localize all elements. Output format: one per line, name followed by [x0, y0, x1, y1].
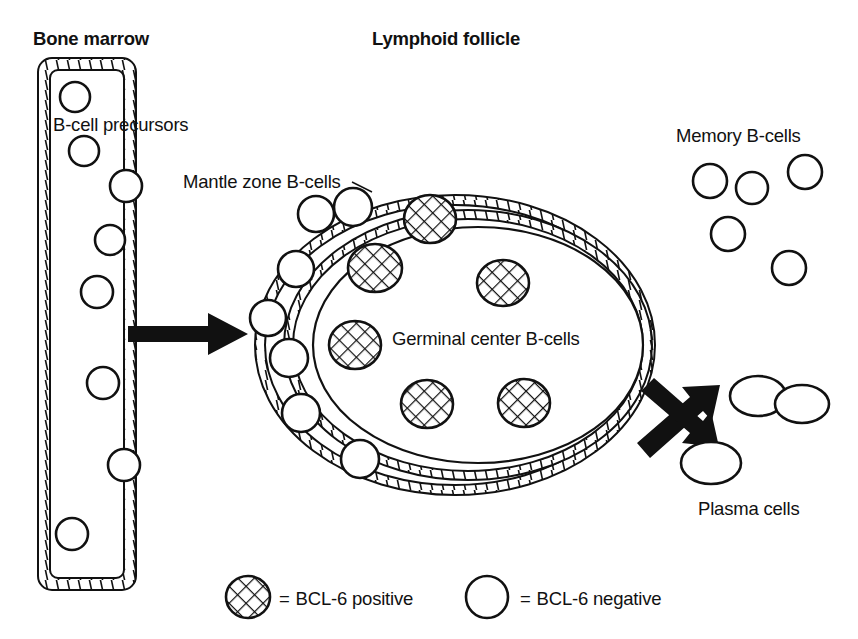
legend-bcl6-negative-text: =BCL-6 negative — [520, 588, 661, 609]
memory-b-cells-group — [693, 155, 822, 285]
legend-bcl6-positive-text: =BCL-6 positive — [279, 588, 413, 609]
arrow-marrow-to-follicle — [128, 313, 248, 355]
b-cell-differentiation-diagram: Bone marrow Lymphoid follicle B-cell pre… — [0, 0, 858, 639]
memory-b-cells-label: Memory B-cells — [676, 125, 801, 146]
precursor-cell — [110, 170, 142, 202]
bcl6-positive-cell — [329, 321, 381, 369]
memory-b-cell — [772, 251, 806, 285]
precursor-cell — [60, 82, 90, 112]
precursor-cell — [69, 136, 99, 166]
plasma-cell — [681, 442, 741, 484]
bcl6-positive-cell — [348, 244, 402, 292]
precursor-cell — [87, 367, 119, 399]
bone-marrow-group — [38, 58, 142, 590]
mantle-zone-cell — [250, 300, 286, 336]
legend-bcl6-negative-icon — [466, 576, 508, 618]
mantle-zone-cell — [298, 196, 334, 232]
bone-marrow-title: Bone marrow — [33, 28, 150, 49]
plasma-cells-label: Plasma cells — [698, 498, 799, 519]
precursor-cell — [108, 449, 140, 481]
mantle-zone-cell — [270, 339, 308, 377]
germinal-center-label: Germinal center B-cells — [392, 328, 580, 349]
precursor-cell — [95, 225, 125, 255]
precursor-cell — [81, 276, 113, 308]
memory-b-cell — [736, 172, 768, 204]
bcl6-positive-cell — [404, 195, 456, 243]
precursor-cell — [56, 518, 88, 550]
mantle-zone-cell — [278, 251, 314, 287]
memory-b-cell — [788, 155, 822, 189]
bcl6-positive-cell — [401, 380, 453, 428]
mantle-zone-cell — [334, 188, 372, 226]
mantle-zone-cell — [282, 394, 320, 432]
mantle-zone-cell — [341, 440, 379, 478]
bcl6-positive-cell — [477, 260, 529, 306]
figure-canvas: Bone marrow Lymphoid follicle B-cell pre… — [0, 0, 858, 639]
lymphoid-follicle-title: Lymphoid follicle — [372, 28, 520, 49]
plasma-cell — [775, 385, 829, 423]
memory-b-cell — [693, 164, 727, 198]
bcl6-positive-cell — [498, 379, 550, 427]
mantle-zone-label: Mantle zone B-cells — [183, 171, 341, 192]
memory-b-cell — [711, 217, 745, 251]
legend-bcl6-positive-icon — [226, 576, 270, 618]
b-cell-precursors-label: B-cell precursors — [53, 114, 188, 135]
